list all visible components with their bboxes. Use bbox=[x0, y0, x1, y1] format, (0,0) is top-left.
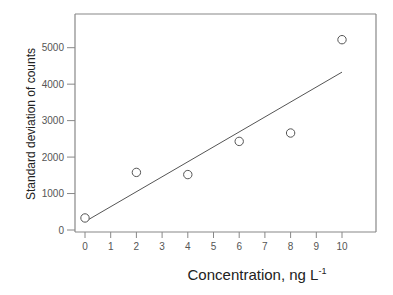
x-tick-label: 6 bbox=[236, 241, 242, 252]
y-tick-label: 5000 bbox=[42, 42, 65, 53]
x-tick-label: 7 bbox=[262, 241, 268, 252]
x-tick-label: 8 bbox=[288, 241, 294, 252]
y-axis-title: Standard deviation of counts bbox=[24, 48, 38, 200]
x-axis: 012345678910 bbox=[82, 232, 348, 252]
x-tick-label: 0 bbox=[82, 241, 88, 252]
y-tick-label: 2000 bbox=[42, 152, 65, 163]
fit-line bbox=[85, 72, 342, 221]
y-tick-label: 1000 bbox=[42, 188, 65, 199]
scatter-chart: 010002000300040005000 012345678910 Conce… bbox=[0, 0, 393, 295]
y-tick-label: 0 bbox=[58, 225, 64, 236]
x-tick-label: 9 bbox=[314, 241, 320, 252]
data-point-circle bbox=[286, 129, 294, 137]
y-tick-label: 3000 bbox=[42, 115, 65, 126]
data-point-circle bbox=[184, 170, 192, 178]
x-tick-label: 4 bbox=[185, 241, 191, 252]
x-axis-title: Concentration, ng L-1 bbox=[188, 266, 327, 283]
x-tick-label: 5 bbox=[211, 241, 217, 252]
plot-frame bbox=[75, 14, 376, 232]
y-tick-label: 4000 bbox=[42, 79, 65, 90]
data-point-circle bbox=[132, 168, 140, 176]
data-point-circle bbox=[338, 35, 346, 43]
regression-line bbox=[85, 72, 342, 221]
x-tick-label: 1 bbox=[108, 241, 114, 252]
y-axis: 010002000300040005000 bbox=[42, 42, 75, 235]
x-tick-label: 10 bbox=[336, 241, 348, 252]
x-tick-label: 3 bbox=[159, 241, 165, 252]
x-tick-label: 2 bbox=[134, 241, 140, 252]
data-point-circle bbox=[81, 214, 89, 222]
data-points bbox=[81, 35, 346, 222]
data-point-circle bbox=[235, 137, 243, 145]
